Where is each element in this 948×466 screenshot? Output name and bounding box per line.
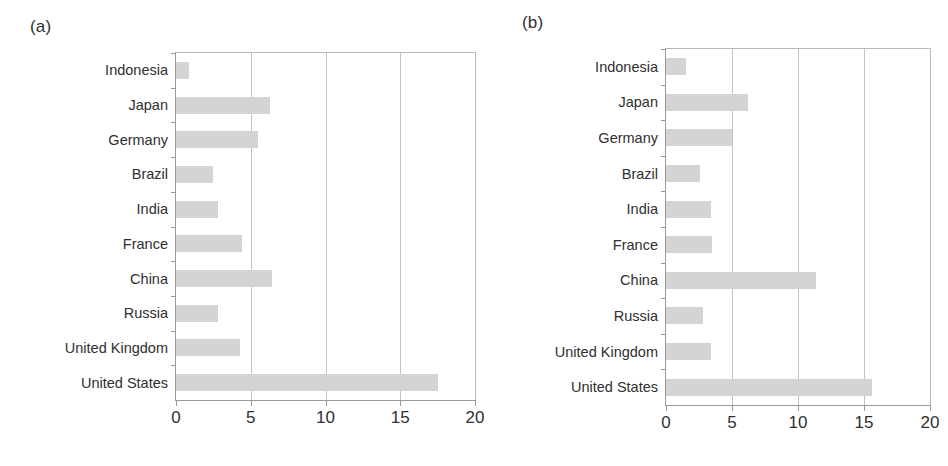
- x-tick-label: 15: [855, 414, 874, 431]
- bar-row: Japan: [666, 85, 930, 121]
- bar-row: Japan: [176, 88, 475, 123]
- x-tick: [732, 405, 733, 411]
- y-tick: [171, 296, 176, 297]
- bar: [666, 129, 732, 146]
- y-tick: [661, 263, 666, 264]
- category-label: China: [620, 273, 666, 288]
- category-label: United Kingdom: [65, 341, 176, 356]
- y-tick: [661, 227, 666, 228]
- bar-row: Indonesia: [176, 53, 475, 88]
- bar-row: Brazil: [176, 157, 475, 192]
- bar: [176, 305, 218, 322]
- y-tick: [661, 85, 666, 86]
- category-label: India: [627, 202, 666, 217]
- bar-row: China: [176, 261, 475, 296]
- bar: [666, 343, 711, 360]
- x-tick-label: 10: [789, 414, 808, 431]
- y-tick: [171, 53, 176, 54]
- x-tick: [326, 400, 327, 406]
- y-tick: [661, 156, 666, 157]
- bar: [176, 62, 189, 79]
- x-tick-label: 0: [171, 409, 180, 426]
- bar: [666, 58, 686, 75]
- category-label: India: [137, 202, 176, 217]
- bar-row: France: [666, 227, 930, 263]
- bar-row: Russia: [666, 298, 930, 334]
- x-tick: [864, 405, 865, 411]
- y-tick: [171, 227, 176, 228]
- bar: [176, 166, 213, 183]
- y-tick: [171, 261, 176, 262]
- y-tick: [661, 191, 666, 192]
- bar: [666, 272, 816, 289]
- bar-row: United Kingdom: [176, 331, 475, 366]
- panel-a-x-axis: 05101520: [176, 400, 475, 434]
- bar: [666, 165, 700, 182]
- panel-b-x-axis: 05101520: [666, 405, 930, 439]
- x-tick: [798, 405, 799, 411]
- bar-row: Germany: [176, 122, 475, 157]
- panel-b-label: (b): [522, 13, 543, 33]
- figure-container: (a) IndonesiaJapanGermanyBrazilIndiaFran…: [0, 0, 948, 466]
- bar: [176, 201, 218, 218]
- category-label: France: [123, 237, 176, 252]
- y-tick: [171, 192, 176, 193]
- bar: [666, 236, 712, 253]
- bar-row: India: [666, 191, 930, 227]
- panel-b-plot-area: IndonesiaJapanGermanyBrazilIndiaFranceCh…: [665, 48, 931, 406]
- bar-row: United States: [666, 369, 930, 405]
- x-tick: [176, 400, 177, 406]
- panel-b-bar-rows: IndonesiaJapanGermanyBrazilIndiaFranceCh…: [666, 49, 930, 405]
- category-label: Germany: [598, 131, 666, 146]
- category-label: United States: [81, 375, 176, 390]
- category-label: Russia: [614, 309, 666, 324]
- category-label: Indonesia: [105, 63, 176, 78]
- y-tick: [661, 120, 666, 121]
- category-label: Brazil: [132, 167, 176, 182]
- y-tick: [171, 122, 176, 123]
- bar: [176, 374, 438, 391]
- bar: [666, 201, 711, 218]
- bar: [176, 97, 270, 114]
- bar: [666, 379, 872, 396]
- bar-row: United States: [176, 365, 475, 400]
- category-label: United States: [571, 380, 666, 395]
- panel-a-bar-rows: IndonesiaJapanGermanyBrazilIndiaFranceCh…: [176, 53, 475, 400]
- x-tick-label: 5: [727, 414, 736, 431]
- bar-row: China: [666, 263, 930, 299]
- category-label: Japan: [618, 95, 666, 110]
- panel-a-label: (a): [30, 17, 51, 37]
- category-label: United Kingdom: [555, 344, 666, 359]
- y-tick: [661, 369, 666, 370]
- bar: [176, 131, 258, 148]
- x-tick: [475, 400, 476, 406]
- category-label: France: [613, 238, 666, 253]
- y-tick: [171, 331, 176, 332]
- y-tick: [171, 88, 176, 89]
- category-label: Germany: [108, 133, 176, 148]
- x-tick: [400, 400, 401, 406]
- panel-a-plot-area: IndonesiaJapanGermanyBrazilIndiaFranceCh…: [175, 52, 476, 401]
- bar-row: United Kingdom: [666, 334, 930, 370]
- y-tick: [661, 334, 666, 335]
- x-tick-label: 0: [661, 414, 670, 431]
- x-tick-label: 5: [246, 409, 255, 426]
- bar: [176, 235, 242, 252]
- bar-row: Brazil: [666, 156, 930, 192]
- category-label: Russia: [124, 306, 176, 321]
- chart-panel-b: (b) IndonesiaJapanGermanyBrazilIndiaFran…: [480, 0, 948, 466]
- x-tick: [930, 405, 931, 411]
- bar-row: Russia: [176, 296, 475, 331]
- bar-row: France: [176, 227, 475, 262]
- category-label: Indonesia: [595, 60, 666, 75]
- y-tick: [171, 157, 176, 158]
- chart-panel-a: (a) IndonesiaJapanGermanyBrazilIndiaFran…: [0, 0, 480, 466]
- bar: [176, 270, 272, 287]
- bar-row: Indonesia: [666, 49, 930, 85]
- bar-row: India: [176, 192, 475, 227]
- category-label: China: [130, 271, 176, 286]
- category-label: Japan: [128, 98, 176, 113]
- y-tick: [661, 298, 666, 299]
- x-tick-label: 10: [316, 409, 335, 426]
- x-tick: [666, 405, 667, 411]
